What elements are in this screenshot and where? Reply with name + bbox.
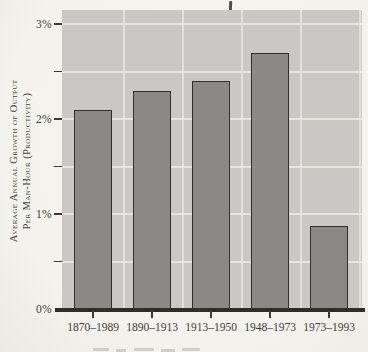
- gridline-horizontal: [62, 71, 362, 73]
- y-tick-label: 1%: [18, 207, 52, 221]
- bar-1948-1973: [251, 53, 289, 313]
- y-tick: [54, 213, 62, 215]
- y-tick-label: 0%: [18, 302, 52, 316]
- y-axis-title: Average Annual Growth of Output Per Man-…: [7, 51, 35, 271]
- gridline-vertical: [359, 10, 361, 312]
- x-tick-label: 1973–1993: [294, 320, 364, 334]
- x-tick: [269, 311, 271, 318]
- gridline-vertical: [123, 10, 125, 312]
- plot-area: [62, 10, 362, 312]
- y-tick: [54, 23, 62, 25]
- scanned-page: Average Annual Growth of Output Per Man-…: [0, 0, 368, 352]
- cutoff-text-fragment: [116, 349, 126, 352]
- y-tick-label: 3%: [18, 17, 52, 31]
- y-axis-title-line2: Per Man-Hour (Productivity): [20, 51, 33, 271]
- bar-1870-1989: [74, 110, 112, 313]
- x-tick: [92, 311, 94, 318]
- x-tick: [210, 311, 212, 318]
- cutoff-text-fragment: [134, 348, 154, 351]
- x-tick: [151, 311, 153, 318]
- y-tick: [54, 118, 62, 120]
- bar-1890-1913: [133, 91, 171, 313]
- cutoff-text-fragment: [161, 349, 175, 352]
- y-minor-tick: [54, 261, 62, 263]
- gridline-vertical: [300, 10, 302, 312]
- bar-1973-1993: [310, 226, 348, 312]
- x-tick: [328, 311, 330, 318]
- y-minor-tick: [54, 166, 62, 168]
- gridline-vertical: [241, 10, 243, 312]
- y-tick-label: 2%: [18, 112, 52, 126]
- y-axis-title-line1: Average Annual Growth of Output: [7, 51, 20, 271]
- cutoff-text-fragment: [182, 348, 200, 351]
- gridline-horizontal: [62, 23, 362, 25]
- bar-1913-1950: [192, 81, 230, 312]
- y-minor-tick: [54, 71, 62, 73]
- gridline-vertical: [182, 10, 184, 312]
- cutoff-text-fragment: [93, 348, 109, 351]
